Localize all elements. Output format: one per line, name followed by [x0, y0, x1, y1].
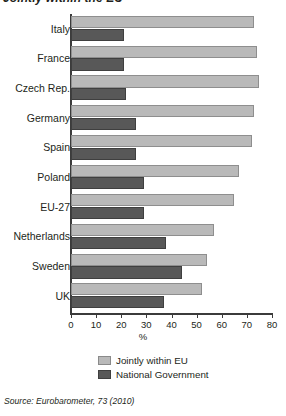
category-label-eu-27: EU-27 — [40, 202, 70, 213]
x-axis-tick-label: 50 — [191, 319, 202, 330]
x-axis-tick-label: 0 — [68, 319, 73, 330]
bar-jointly-within-eu-germany — [71, 105, 254, 117]
bar-national-government-germany — [71, 118, 136, 130]
bar-national-government-netherlands — [71, 237, 166, 249]
legend-item-national-government: National Government — [98, 369, 209, 380]
category-label-poland: Poland — [37, 172, 70, 183]
bar-jointly-within-eu-spain — [71, 135, 252, 147]
bar-national-government-italy — [71, 29, 124, 41]
bar-jointly-within-eu-netherlands — [71, 224, 214, 236]
x-axis-label: % — [0, 331, 286, 342]
chart-title-strip: Jointly within the EU — [0, 0, 286, 11]
x-axis-tick — [222, 313, 223, 318]
chart-row: Poland — [0, 165, 286, 195]
category-label-france: France — [37, 53, 70, 64]
page-title: Jointly within the EU — [3, 0, 123, 5]
x-axis-tick-label: 70 — [242, 319, 253, 330]
category-label-netherlands: Netherlands — [13, 231, 70, 242]
bar-jointly-within-eu-italy — [71, 16, 254, 28]
x-axis-tick — [272, 313, 273, 318]
source-note: Source: Eurobarometer, 73 (2010) — [4, 396, 134, 406]
category-label-czech-rep: Czech Rep. — [15, 83, 70, 94]
chart-row: Sweden — [0, 254, 286, 284]
x-axis-tick-label: 20 — [116, 319, 127, 330]
legend-swatch-icon-national-government — [98, 370, 111, 379]
bar-jointly-within-eu-uk — [71, 283, 202, 295]
chart-row: Netherlands — [0, 224, 286, 254]
bar-jointly-within-eu-czech-rep — [71, 75, 259, 87]
bar-jointly-within-eu-eu-27 — [71, 194, 234, 206]
bar-national-government-spain — [71, 148, 136, 160]
chart-legend: Jointly within EU National Government — [98, 355, 209, 383]
bar-jointly-within-eu-france — [71, 46, 257, 58]
x-axis-tick-label: 10 — [91, 319, 102, 330]
category-label-spain: Spain — [43, 142, 70, 153]
legend-swatch-icon-jointly-within-eu — [98, 356, 111, 365]
bar-jointly-within-eu-poland — [71, 165, 239, 177]
chart-row: France — [0, 46, 286, 76]
chart-row: UK — [0, 283, 286, 313]
bar-national-government-poland — [71, 177, 144, 189]
bar-national-government-czech-rep — [71, 88, 126, 100]
category-label-italy: Italy — [51, 24, 70, 35]
x-axis-tick-label: 80 — [267, 319, 278, 330]
chart-page: Jointly within the EU 01020304050607080 … — [0, 0, 286, 416]
chart-row: Germany — [0, 105, 286, 135]
legend-label-national-government: National Government — [116, 369, 209, 380]
legend-item-jointly-within-eu: Jointly within EU — [98, 355, 209, 366]
x-axis-tick — [172, 313, 173, 318]
x-axis-tick — [247, 313, 248, 318]
x-axis-tick-label: 60 — [216, 319, 227, 330]
x-axis-tick — [71, 313, 72, 318]
bar-national-government-eu-27 — [71, 207, 144, 219]
category-label-sweden: Sweden — [32, 261, 70, 272]
x-axis-tick — [146, 313, 147, 318]
chart-row: Spain — [0, 135, 286, 165]
bar-national-government-sweden — [71, 266, 182, 278]
bar-national-government-uk — [71, 296, 164, 308]
chart-row: EU-27 — [0, 194, 286, 224]
bar-national-government-france — [71, 58, 124, 70]
x-axis-tick — [96, 313, 97, 318]
x-axis-tick-label: 40 — [166, 319, 177, 330]
category-label-uk: UK — [55, 291, 70, 302]
bar-jointly-within-eu-sweden — [71, 254, 207, 266]
category-label-germany: Germany — [27, 113, 70, 124]
x-axis-tick-label: 30 — [141, 319, 152, 330]
x-axis-tick — [121, 313, 122, 318]
chart-row: Italy — [0, 16, 286, 46]
chart-row: Czech Rep. — [0, 75, 286, 105]
legend-label-jointly-within-eu: Jointly within EU — [116, 355, 188, 366]
x-axis-tick — [197, 313, 198, 318]
